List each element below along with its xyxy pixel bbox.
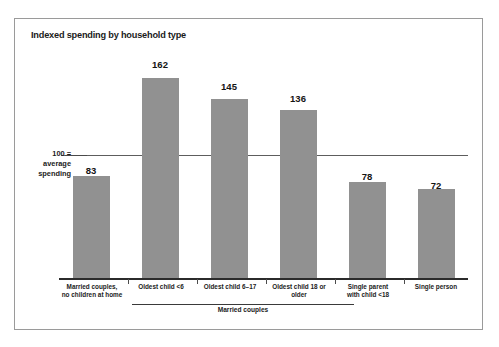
bar-value-label: 145 (201, 81, 257, 92)
bar-oldest-child-18-or-older (280, 110, 317, 278)
category-label-line: older (261, 291, 337, 299)
group-bracket-rule (132, 304, 354, 305)
category-label-line: Oldest child <6 (125, 283, 197, 291)
bar-oldest-child-under-6 (142, 78, 179, 278)
category-label-single-parent-with-child: Single parent with child <18 (331, 283, 405, 300)
category-label-married-couples-no-children: Married couples, no children at home (53, 283, 131, 300)
category-label-line: Married couples, (53, 283, 131, 291)
bar-value-label: 83 (63, 165, 119, 176)
bar-single-parent-with-child (349, 182, 386, 278)
chart-frame: Indexed spending by household type 100 =… (14, 18, 483, 330)
category-label-single-person: Single person (400, 283, 472, 291)
axis-tick (128, 279, 129, 284)
category-label-line: no children at home (53, 291, 131, 299)
y-axis-caption-line-1: 100 = (21, 149, 71, 159)
category-label-oldest-child-18-or-older: Oldest child 18 or older (261, 283, 337, 300)
axis-tick (404, 279, 405, 284)
axis-tick (197, 279, 198, 284)
category-axis-line (59, 278, 468, 280)
category-label-oldest-child-6-17: Oldest child 6–17 (193, 283, 267, 291)
bar-married-couples-no-children (73, 176, 110, 278)
bar-single-person (418, 189, 455, 278)
category-label-line: with child <18 (331, 291, 405, 299)
bar-oldest-child-6-17 (211, 99, 248, 278)
reference-line-100 (61, 155, 468, 156)
axis-tick (266, 279, 267, 284)
category-label-oldest-child-under-6: Oldest child <6 (125, 283, 197, 291)
category-label-line: Oldest child 18 or (261, 283, 337, 291)
bar-value-label: 136 (270, 93, 326, 104)
group-bracket-label: Married couples (132, 306, 354, 313)
category-label-line: Oldest child 6–17 (193, 283, 267, 291)
category-label-line: Single person (400, 283, 472, 291)
category-label-line: Single parent (331, 283, 405, 291)
chart-figure: Indexed spending by household type 100 =… (0, 0, 499, 347)
axis-tick (335, 279, 336, 284)
bar-value-label: 78 (339, 171, 395, 182)
plot-area: 100 = average spending 83 Married couple… (15, 19, 484, 331)
bar-value-label: 162 (132, 59, 188, 70)
